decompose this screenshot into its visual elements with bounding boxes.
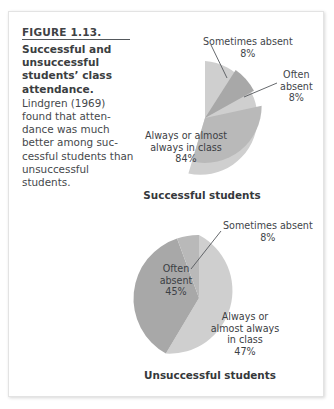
label-successful-always-in-class: Always or almost always in class 84% (134, 130, 238, 165)
figure-number: FIGURE 1.13. (22, 26, 130, 40)
label-successful-often-absent: Often absent 8% (280, 69, 313, 104)
label-percent: 8% (280, 92, 313, 104)
label-unsuccessful-always-in-class: Always or almost always in class 47% (203, 311, 287, 357)
label-percent: 8% (223, 232, 313, 244)
label-unsuccessful-often-absent: Often absent 45% (148, 263, 204, 298)
label-text-line3: in class (227, 334, 263, 345)
figure-caption-title: Successful and unsuccessful students’ cl… (22, 43, 134, 96)
chart-title-unsuccessful-students: Unsuccessful students (126, 369, 294, 381)
label-unsuccessful-sometimes-absent: Sometimes absent 8% (223, 220, 313, 243)
label-text: Sometimes absent (223, 220, 313, 231)
pie-chart-successful-students: Sometimes absent 8% Often absent 8% Alwa… (127, 22, 323, 207)
label-text-line2: absent (280, 81, 313, 92)
label-percent: 47% (234, 346, 255, 357)
figure-page: FIGURE 1.13. Successful and unsuccessful… (8, 11, 324, 397)
label-percent: 45% (165, 286, 186, 297)
label-text: Sometimes absent (203, 36, 293, 47)
label-text-line1: Always or (222, 311, 269, 322)
label-percent: 8% (203, 48, 293, 60)
label-text-line1: Always or almost (145, 130, 227, 141)
label-successful-sometimes-absent: Sometimes absent 8% (203, 36, 293, 59)
chart-title-successful-students: Successful students (127, 189, 277, 201)
figure-caption: FIGURE 1.13. Successful and unsuccessful… (22, 26, 134, 189)
label-percent: 84% (175, 153, 196, 164)
label-text-line1: Often (283, 69, 310, 80)
label-text-line2: absent (160, 275, 193, 286)
figure-caption-body: Lindgren (1969) found that atten-dance w… (22, 97, 134, 189)
label-text-line2: almost always (211, 323, 280, 334)
label-text-line1: Often (163, 263, 190, 274)
pie-chart-unsuccessful-students: Sometimes absent 8% Often absent 45% Alw… (117, 208, 323, 390)
label-text-line2: always in class (150, 142, 222, 153)
